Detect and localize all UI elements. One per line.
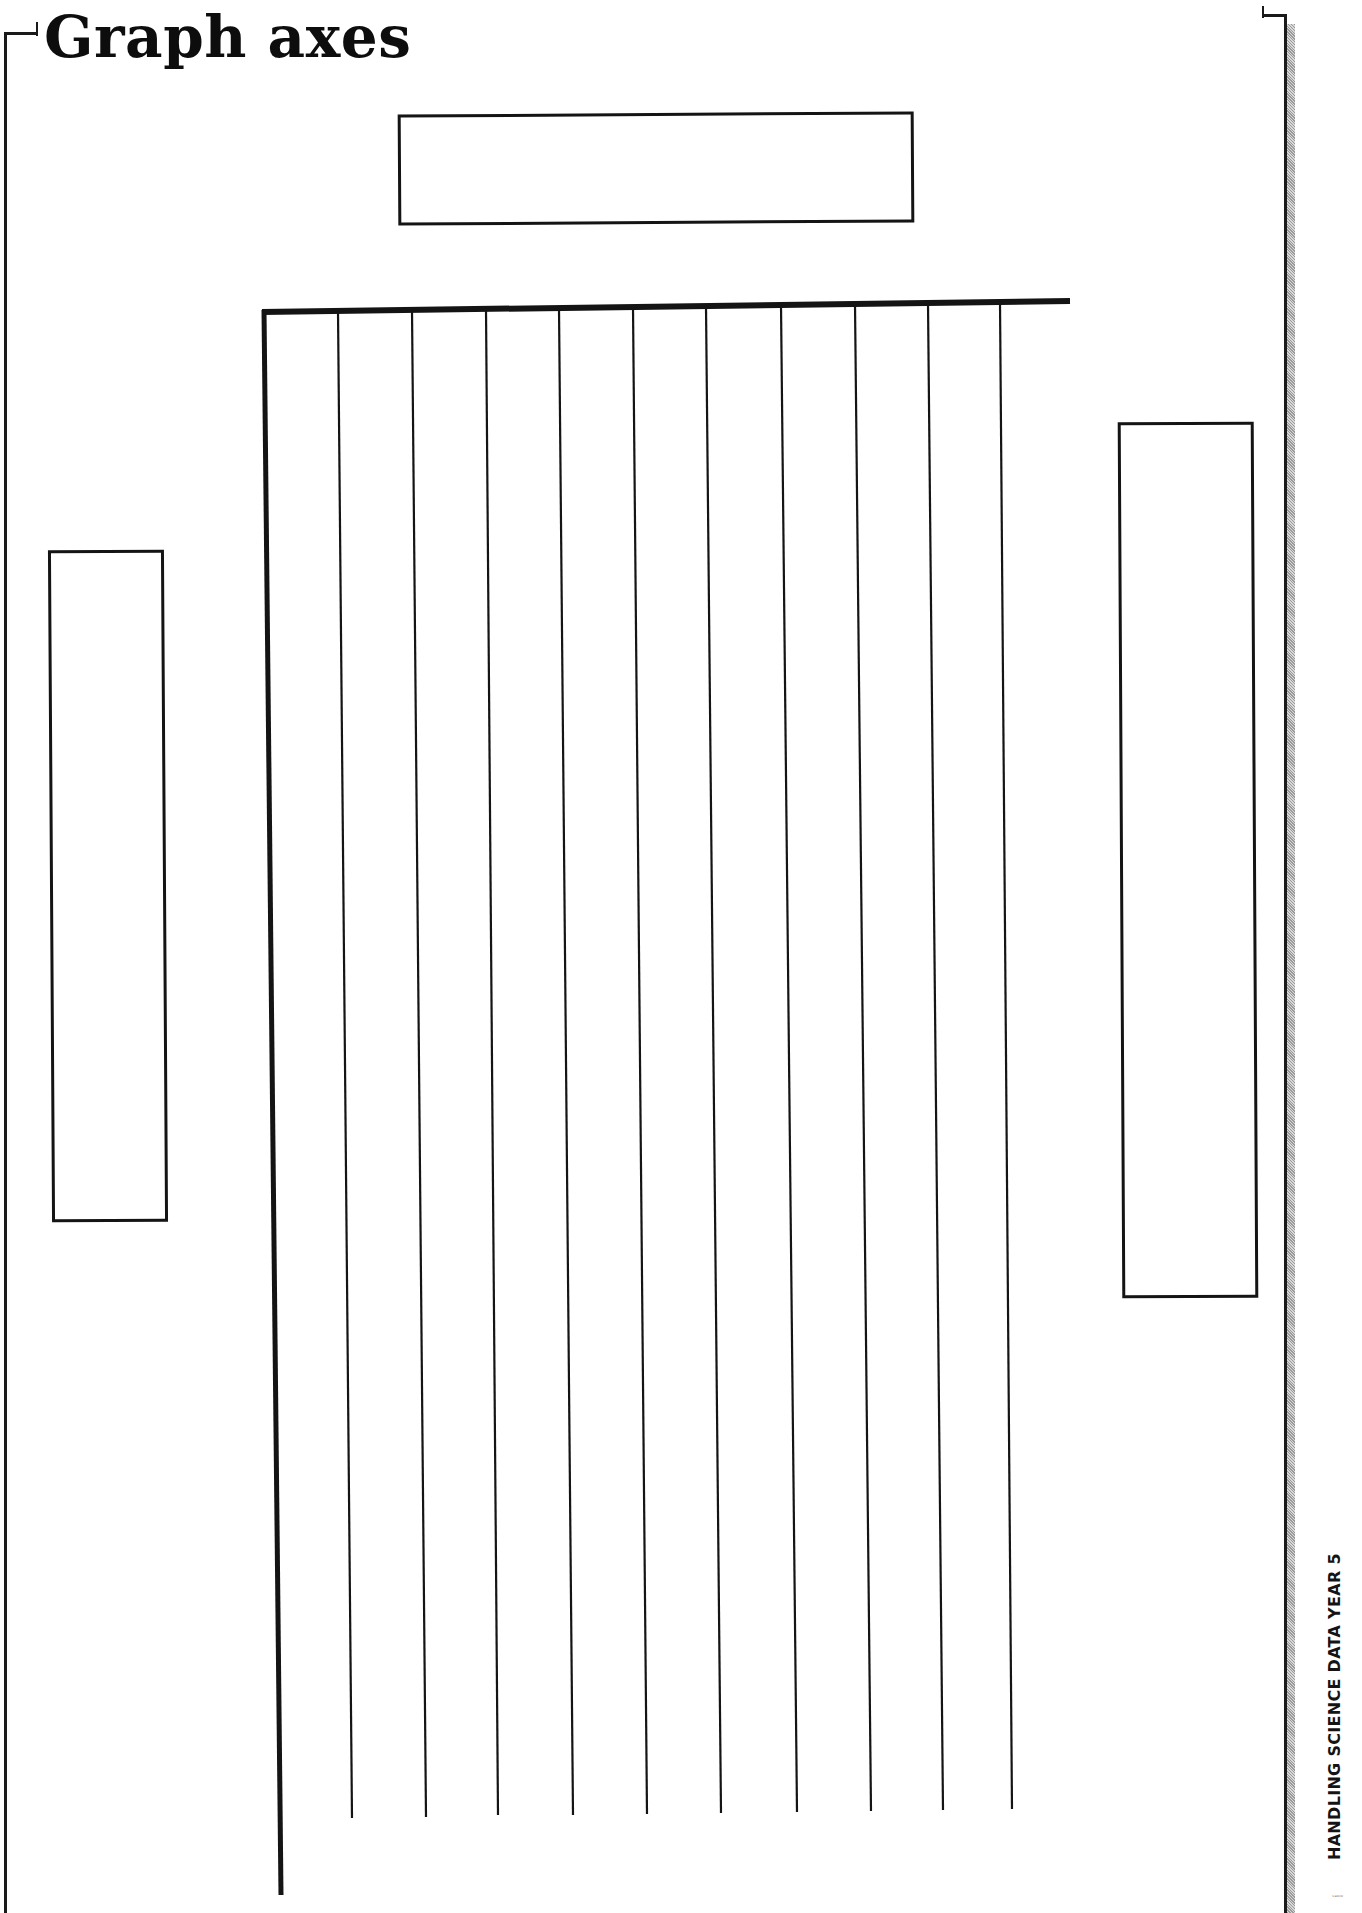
column-line xyxy=(338,311,352,1818)
footer-mark: ᵛᵃʷʷ xyxy=(1332,1893,1343,1900)
column-line xyxy=(928,303,943,1810)
horizontal-axis xyxy=(262,301,1070,312)
column-line xyxy=(855,304,871,1811)
footer-series-title: HANDLING SCIENCE DATA YEAR 5 xyxy=(1325,1553,1344,1860)
column-line xyxy=(633,307,647,1814)
column-line xyxy=(486,309,498,1815)
vertical-axis xyxy=(264,310,281,1895)
column-line xyxy=(412,310,426,1817)
column-lines xyxy=(338,302,1012,1818)
graph-axes xyxy=(0,0,1362,1913)
column-line xyxy=(706,306,721,1813)
column-line xyxy=(781,305,797,1812)
column-line xyxy=(559,308,573,1815)
column-line xyxy=(1000,302,1012,1809)
